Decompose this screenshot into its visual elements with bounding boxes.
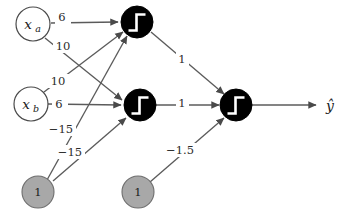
node-input-b[interactable]: x b: [14, 87, 48, 121]
output-signal-label: ŷ: [325, 98, 335, 114]
node-output[interactable]: [220, 89, 252, 121]
weight-label-h2-to-out: 1: [178, 96, 185, 110]
weight-label-a-to-h1: 6: [58, 10, 65, 24]
weight-label-bias-to-out: −1.5: [166, 143, 194, 157]
weight-label-b-to-h1: 10: [51, 74, 66, 88]
neural-network-diagram: 6 10 10 6 −15 −15 1 1 −1.5 x a: [0, 0, 345, 213]
weight-label-h1-to-out: 1: [178, 52, 185, 66]
node-bias-output[interactable]: 1: [122, 176, 154, 208]
input-b-circle[interactable]: [14, 87, 48, 121]
diagram-canvas: 6 10 10 6 −15 −15 1 1 −1.5 x a: [0, 0, 345, 213]
node-hidden-2[interactable]: [124, 89, 156, 121]
bias-hidden-label: 1: [34, 185, 41, 199]
input-a-subscript: a: [35, 23, 41, 34]
node-input-a[interactable]: x a: [16, 7, 50, 41]
bias-output-label: 1: [134, 185, 141, 199]
input-b-label: x: [22, 96, 30, 112]
input-b-subscript: b: [33, 103, 39, 114]
input-a-circle[interactable]: [16, 7, 50, 41]
weight-label-b-to-h2: 6: [55, 97, 62, 111]
node-hidden-1[interactable]: [121, 6, 153, 38]
weight-label-bias-to-h2: −15: [58, 145, 82, 159]
weight-label-a-to-h2: 10: [56, 39, 71, 53]
node-bias-hidden[interactable]: 1: [22, 176, 54, 208]
input-a-label: x: [24, 16, 32, 32]
weight-label-bias-to-h1: −15: [49, 122, 73, 136]
